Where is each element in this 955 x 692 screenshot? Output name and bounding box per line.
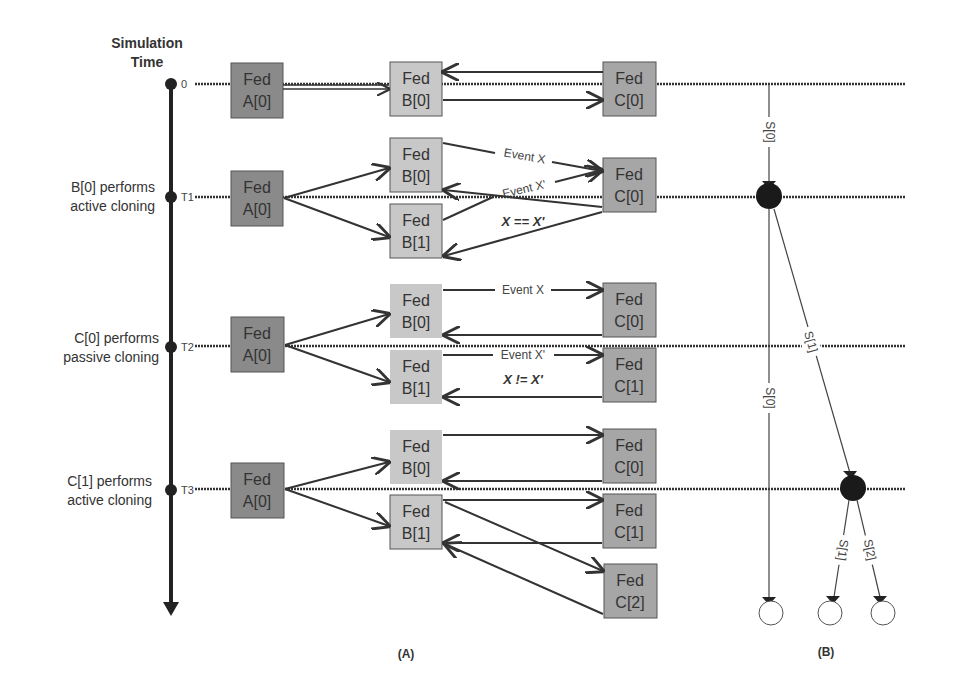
tick-t3: T3: [181, 484, 194, 496]
svg-text:Fed: Fed: [402, 212, 430, 229]
svg-text:C[1]: C[1]: [614, 524, 643, 541]
state-s0-label-top: S[0]: [763, 121, 777, 142]
svg-text:A[0]: A[0]: [243, 347, 271, 364]
timeline: Simulation Time 0 T1 T2 T3 B[0] performs…: [63, 35, 194, 616]
fed-c0-box: Fed C[0]: [603, 283, 656, 337]
fed-b0-box: Fed B[0]: [390, 62, 442, 116]
svg-text:B[0]: B[0]: [402, 92, 430, 109]
leaf-node-s1: [818, 601, 842, 625]
event-label-2-line1: C[0] performs: [74, 330, 159, 346]
svg-text:B[0]: B[0]: [402, 168, 430, 185]
fed-b0-box: Fed B[0]: [390, 284, 442, 338]
event-label-3-line2: active cloning: [67, 492, 152, 508]
svg-text:B[1]: B[1]: [402, 234, 430, 251]
svg-text:B[0]: B[0]: [402, 314, 430, 331]
time-point-t3: [165, 484, 177, 496]
svg-text:B[1]: B[1]: [402, 525, 430, 542]
svg-text:C[0]: C[0]: [614, 188, 643, 205]
svg-text:Fed: Fed: [243, 179, 271, 196]
svg-text:Fed: Fed: [615, 437, 643, 454]
svg-text:C[0]: C[0]: [614, 92, 643, 109]
fed-b1-box: Fed B[1]: [390, 204, 442, 258]
svg-text:Fed: Fed: [243, 325, 271, 342]
svg-text:Fed: Fed: [402, 292, 430, 309]
time-point-0: [165, 78, 177, 90]
time-axis-arrow-icon: [163, 602, 179, 616]
event-x-prime-label: Event X': [501, 348, 545, 362]
svg-text:A[0]: A[0]: [243, 493, 271, 510]
leaf-node-s0: [759, 601, 783, 625]
svg-text:Fed: Fed: [243, 71, 271, 88]
row-time-0: Fed A[0] Fed B[0] Fed C[0]: [231, 62, 656, 118]
tick-t1: T1: [181, 191, 194, 203]
svg-text:Fed: Fed: [402, 503, 430, 520]
svg-text:Fed: Fed: [402, 438, 430, 455]
svg-text:C[0]: C[0]: [614, 459, 643, 476]
event-x-label: Event X: [503, 146, 547, 167]
time-point-t2: [165, 341, 177, 353]
event-x-label: Event X: [502, 283, 544, 297]
svg-text:Fed: Fed: [402, 146, 430, 163]
svg-text:A[0]: A[0]: [243, 201, 271, 218]
state-tree: S[0] S[0] S[1] S[1] S[2]: [756, 84, 895, 625]
panel-b-caption: (B): [818, 645, 835, 659]
branch-node-2: [840, 475, 866, 501]
row-time-t3: Fed A[0] Fed B[0] Fed B[1] Fed C[0] Fed …: [231, 429, 657, 618]
fed-c0-box: Fed C[0]: [603, 158, 656, 212]
row-time-t2: Fed A[0] Fed B[0] Fed B[1] Fed C[0] Fed …: [231, 283, 656, 404]
leaf-node-s2: [871, 601, 895, 625]
event-label-1-line2: active cloning: [70, 198, 155, 214]
svg-text:Fed: Fed: [615, 166, 643, 183]
fed-c1-box: Fed C[1]: [603, 494, 656, 548]
fed-b1-box: Fed B[1]: [390, 495, 442, 549]
tick-t2: T2: [181, 341, 194, 353]
event-label-3-line1: C[1] performs: [67, 473, 152, 489]
equal-label: X == X': [501, 214, 546, 229]
tick-0: 0: [181, 78, 187, 90]
svg-text:B[1]: B[1]: [402, 380, 430, 397]
svg-text:B[0]: B[0]: [402, 460, 430, 477]
svg-text:Fed: Fed: [616, 572, 644, 589]
fed-a0-box: Fed A[0]: [231, 171, 283, 226]
svg-text:Fed: Fed: [615, 356, 643, 373]
svg-text:C[2]: C[2]: [615, 594, 644, 611]
svg-text:C[0]: C[0]: [614, 313, 643, 330]
timeline-title-line2: Time: [131, 54, 164, 70]
event-label-1-line1: B[0] performs: [71, 179, 155, 195]
fed-b0-box: Fed B[0]: [390, 430, 442, 484]
cloning-diagram: Simulation Time 0 T1 T2 T3 B[0] performs…: [0, 0, 955, 692]
state-s0-label-bottom: S[0]: [763, 387, 777, 408]
panel-a-caption: (A): [398, 647, 415, 661]
state-s1-child-label: S[1]: [834, 539, 851, 562]
svg-text:C[1]: C[1]: [614, 378, 643, 395]
svg-text:Fed: Fed: [615, 291, 643, 308]
svg-text:Fed: Fed: [402, 70, 430, 87]
svg-text:Fed: Fed: [243, 471, 271, 488]
time-lines: [195, 84, 906, 489]
timeline-title-line1: Simulation: [111, 35, 183, 51]
fed-c2-box: Fed C[2]: [604, 564, 657, 618]
fed-a0-box: Fed A[0]: [231, 317, 284, 372]
time-point-t1: [165, 191, 177, 203]
fed-a0-box: Fed A[0]: [231, 63, 283, 118]
fed-c0-box: Fed C[0]: [603, 62, 656, 116]
event-label-2-line2: passive cloning: [63, 349, 159, 365]
not-equal-label: X != X': [502, 372, 543, 387]
svg-text:Fed: Fed: [615, 70, 643, 87]
fed-a0-box: Fed A[0]: [231, 463, 284, 518]
branch-node-1: [756, 183, 782, 209]
fed-b1-box: Fed B[1]: [390, 350, 442, 404]
fed-b0-box: Fed B[0]: [390, 138, 442, 192]
svg-text:A[0]: A[0]: [243, 93, 271, 110]
svg-text:Fed: Fed: [402, 358, 430, 375]
svg-text:Fed: Fed: [615, 502, 643, 519]
fed-c1-box: Fed C[1]: [603, 348, 656, 402]
fed-c0-box: Fed C[0]: [603, 429, 656, 483]
